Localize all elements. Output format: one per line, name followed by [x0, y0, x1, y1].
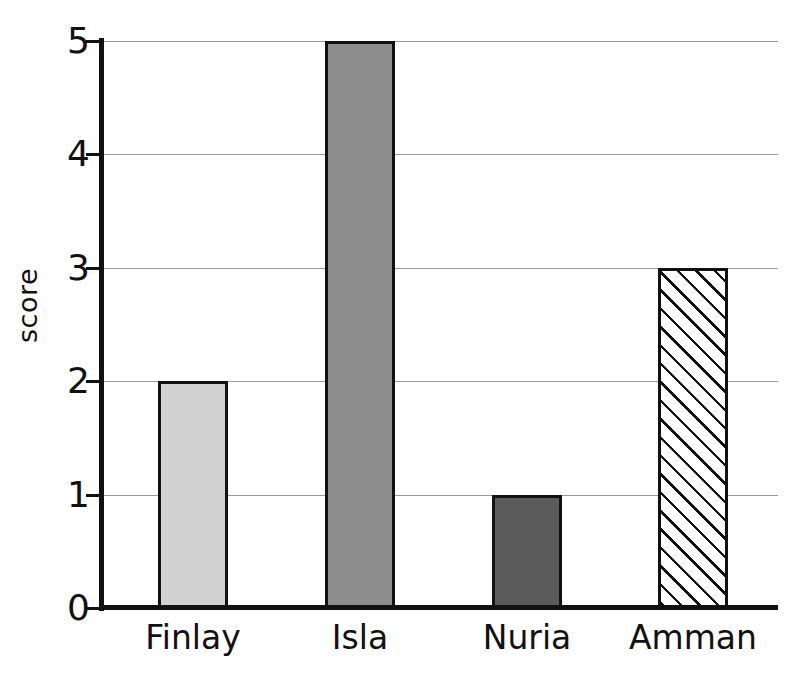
y-tick-label-2: 2	[50, 363, 90, 399]
y-axis-line	[99, 38, 104, 611]
x-axis-category-labels: Finlay Isla Nuria Amman	[102, 616, 778, 668]
x-label-finlay: Finlay	[113, 616, 273, 660]
bar-chart: score 5 4 3 2 1 0 Finlay Isla Nuria Amma…	[0, 0, 803, 677]
plot-area	[102, 41, 778, 608]
y-axis-tick-labels: 5 4 3 2 1 0	[42, 0, 90, 677]
bar-amman[interactable]	[658, 268, 728, 608]
x-label-isla: Isla	[280, 616, 440, 660]
y-tick-label-0: 0	[50, 590, 90, 626]
bar-nuria[interactable]	[492, 495, 562, 608]
bar-finlay[interactable]	[158, 381, 228, 608]
y-tick-label-1: 1	[50, 477, 90, 513]
x-label-amman: Amman	[613, 616, 773, 660]
gridline-4	[102, 154, 778, 155]
y-tick-label-5: 5	[50, 23, 90, 59]
y-tick-label-3: 3	[50, 250, 90, 286]
y-tick-label-4: 4	[50, 136, 90, 172]
bar-isla[interactable]	[325, 41, 395, 608]
x-axis-line	[99, 605, 778, 610]
x-label-nuria: Nuria	[447, 616, 607, 660]
y-axis-title-text: score	[13, 267, 44, 342]
gridline-5	[102, 41, 778, 42]
